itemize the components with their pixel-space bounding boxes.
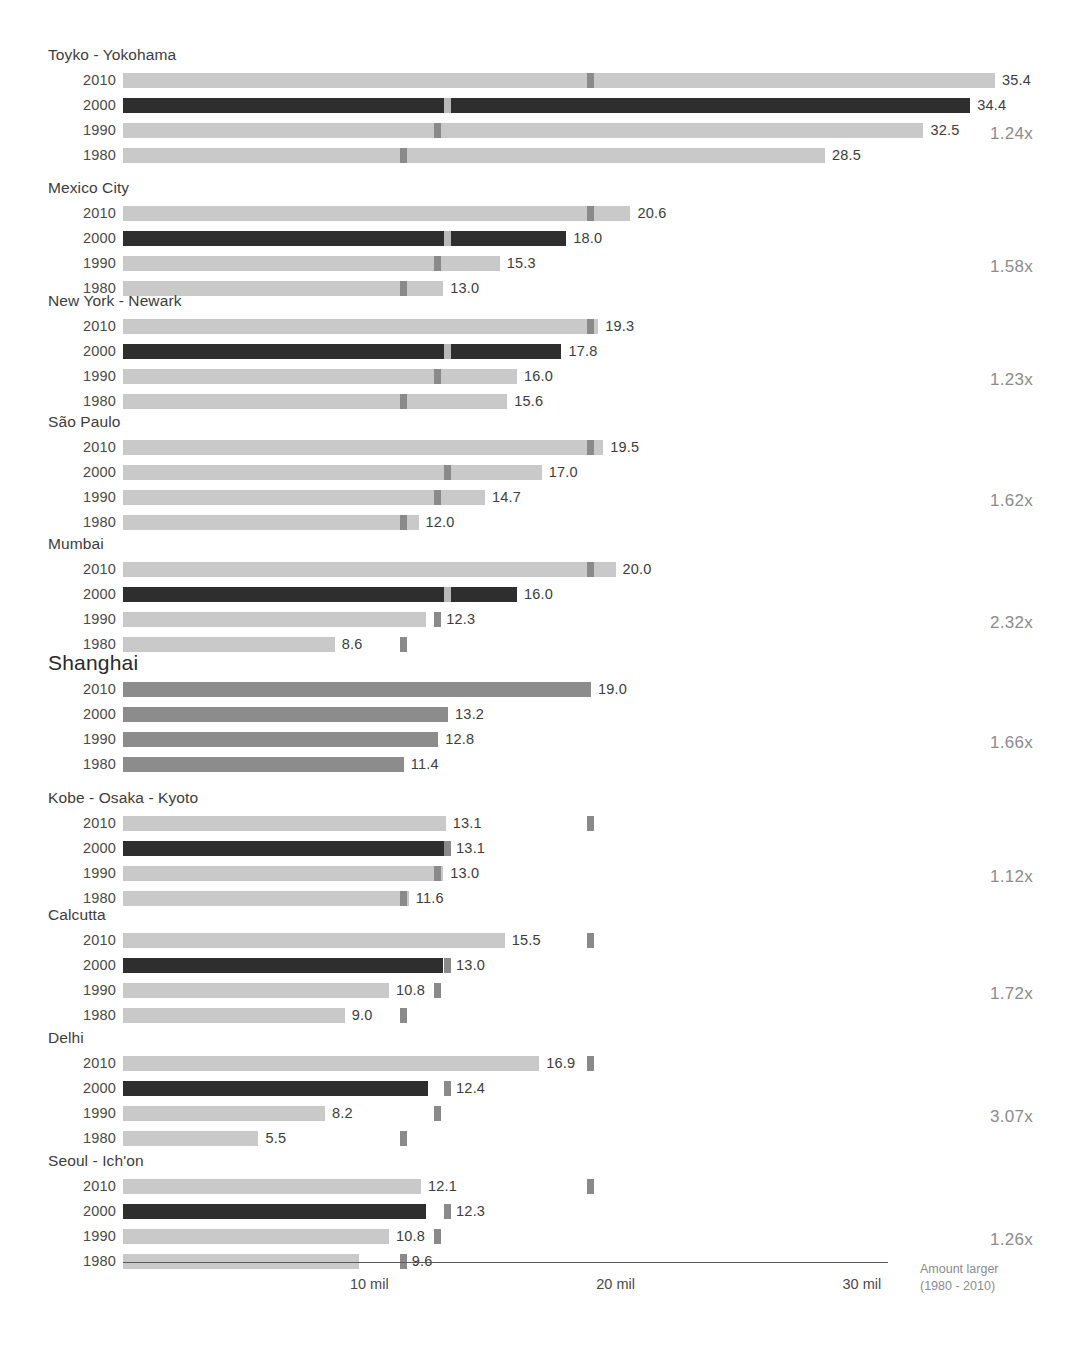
value-label: 19.3 bbox=[605, 317, 634, 336]
growth-multiplier: 1.62x bbox=[990, 491, 1033, 511]
reference-marker bbox=[587, 73, 594, 88]
value-label: 8.6 bbox=[342, 635, 363, 654]
year-label: 2010 bbox=[56, 680, 116, 699]
bar-row: 199032.5 bbox=[0, 121, 1078, 140]
year-label: 2000 bbox=[56, 585, 116, 604]
value-bar bbox=[123, 515, 419, 530]
value-label: 14.7 bbox=[492, 488, 521, 507]
reference-marker bbox=[434, 1106, 441, 1121]
year-label: 2010 bbox=[56, 1177, 116, 1196]
year-label: 2010 bbox=[56, 204, 116, 223]
value-label: 19.5 bbox=[610, 438, 639, 457]
reference-marker bbox=[444, 1204, 451, 1219]
growth-multiplier: 1.26x bbox=[990, 1230, 1033, 1250]
year-label: 2000 bbox=[56, 96, 116, 115]
year-label: 1980 bbox=[56, 1129, 116, 1148]
value-bar bbox=[123, 933, 505, 948]
value-label: 10.8 bbox=[396, 1227, 425, 1246]
reference-marker bbox=[400, 1131, 407, 1146]
value-bar bbox=[123, 1229, 389, 1244]
value-label: 19.0 bbox=[598, 680, 627, 699]
reference-marker bbox=[434, 123, 441, 138]
bar-row: 200016.0 bbox=[0, 585, 1078, 604]
reference-marker bbox=[434, 983, 441, 998]
value-label: 16.0 bbox=[524, 585, 553, 604]
reference-marker bbox=[400, 148, 407, 163]
growth-multiplier: 2.32x bbox=[990, 613, 1033, 633]
year-label: 1980 bbox=[56, 1252, 116, 1271]
reference-marker bbox=[400, 891, 407, 906]
reference-marker bbox=[587, 1179, 594, 1194]
reference-marker bbox=[444, 1081, 451, 1096]
value-label: 15.6 bbox=[514, 392, 543, 411]
bar-row: 198011.6 bbox=[0, 889, 1078, 908]
value-bar bbox=[123, 637, 335, 652]
value-bar bbox=[123, 562, 616, 577]
reference-marker bbox=[444, 841, 451, 856]
value-label: 17.0 bbox=[549, 463, 578, 482]
reference-marker bbox=[400, 394, 407, 409]
value-label: 13.0 bbox=[450, 864, 479, 883]
year-label: 2010 bbox=[56, 71, 116, 90]
bar-row: 199015.3 bbox=[0, 254, 1078, 273]
value-bar bbox=[123, 465, 542, 480]
year-label: 2000 bbox=[56, 342, 116, 361]
value-bar bbox=[123, 344, 561, 359]
bar-row: 199010.8 bbox=[0, 1227, 1078, 1246]
bar-row: 198011.4 bbox=[0, 755, 1078, 774]
bar-row: 200017.0 bbox=[0, 463, 1078, 482]
year-label: 2010 bbox=[56, 1054, 116, 1073]
growth-multiplier: 1.24x bbox=[990, 124, 1033, 144]
bar-row: 199014.7 bbox=[0, 488, 1078, 507]
growth-multiplier: 1.58x bbox=[990, 257, 1033, 277]
growth-multiplier: 3.07x bbox=[990, 1107, 1033, 1127]
growth-multiplier: 1.12x bbox=[990, 867, 1033, 887]
city-label: Mexico City bbox=[48, 179, 129, 197]
value-label: 11.6 bbox=[416, 889, 444, 908]
bar-row: 200012.3 bbox=[0, 1202, 1078, 1221]
bar-row: 199010.8 bbox=[0, 981, 1078, 1000]
reference-marker bbox=[434, 369, 441, 384]
value-bar bbox=[123, 231, 566, 246]
value-label: 12.1 bbox=[428, 1177, 457, 1196]
value-bar bbox=[123, 1204, 426, 1219]
value-label: 20.6 bbox=[637, 204, 666, 223]
reference-marker bbox=[400, 281, 407, 296]
value-bar bbox=[123, 707, 448, 722]
city-label: Kobe - Osaka - Kyoto bbox=[48, 789, 198, 807]
axis-tick-label: 30 mil bbox=[843, 1276, 882, 1292]
year-label: 1980 bbox=[56, 755, 116, 774]
year-label: 1980 bbox=[56, 146, 116, 165]
bar-row: 19908.2 bbox=[0, 1104, 1078, 1123]
value-bar bbox=[123, 891, 409, 906]
bar-row: 199016.0 bbox=[0, 367, 1078, 386]
year-label: 2000 bbox=[56, 705, 116, 724]
value-bar bbox=[123, 123, 923, 138]
value-label: 16.0 bbox=[524, 367, 553, 386]
value-bar bbox=[123, 682, 591, 697]
bar-row: 199012.3 bbox=[0, 610, 1078, 629]
year-label: 1990 bbox=[56, 488, 116, 507]
reference-marker bbox=[434, 490, 441, 505]
axis-tick-label: 20 mil bbox=[596, 1276, 635, 1292]
value-bar bbox=[123, 369, 517, 384]
year-label: 1990 bbox=[56, 367, 116, 386]
value-bar bbox=[123, 1008, 345, 1023]
bar-row: 198012.0 bbox=[0, 513, 1078, 532]
bar-row: 19808.6 bbox=[0, 635, 1078, 654]
year-label: 2000 bbox=[56, 839, 116, 858]
reference-marker bbox=[400, 637, 407, 652]
value-label: 13.1 bbox=[453, 814, 482, 833]
value-bar bbox=[123, 866, 443, 881]
value-label: 13.1 bbox=[456, 839, 485, 858]
bar-row: 201016.9 bbox=[0, 1054, 1078, 1073]
reference-marker bbox=[444, 465, 451, 480]
growth-multiplier: 1.66x bbox=[990, 733, 1033, 753]
year-label: 2000 bbox=[56, 956, 116, 975]
year-label: 1990 bbox=[56, 864, 116, 883]
value-bar bbox=[123, 256, 500, 271]
bar-row: 200013.2 bbox=[0, 705, 1078, 724]
reference-marker bbox=[587, 206, 594, 221]
reference-marker bbox=[587, 933, 594, 948]
reference-marker bbox=[587, 440, 594, 455]
